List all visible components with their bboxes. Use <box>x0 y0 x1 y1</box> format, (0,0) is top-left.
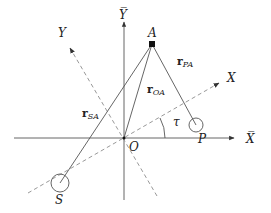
fixed-x-axis-label: X̅ <box>245 131 255 146</box>
angle-tau-arc <box>160 118 165 138</box>
point-s-label: S <box>55 193 63 207</box>
rotated-x-axis-label: X <box>226 71 236 85</box>
vector-r-sa <box>60 44 152 183</box>
vector-r-oa-label: rOA <box>147 83 165 97</box>
vector-r-sa-label: rSA <box>82 107 99 121</box>
vector-r-pa-label: rPA <box>177 55 193 69</box>
rotated-y-axis-label: Y <box>58 26 67 40</box>
diagram-canvas: Y̅ X̅ Y X O A P S τ rSA rOA rPA <box>0 0 271 213</box>
origin-label: O <box>129 140 139 154</box>
point-p-label: P <box>197 132 207 146</box>
point-a-marker <box>149 41 155 47</box>
origin-dot <box>123 137 126 140</box>
point-a-label: A <box>147 26 157 40</box>
fixed-y-axis-label: Y̅ <box>119 7 128 22</box>
vector-r-pa <box>152 44 196 125</box>
angle-tau-label: τ <box>173 115 180 129</box>
rotating-frame-diagram: Y̅ X̅ Y X O A P S τ rSA rOA rPA <box>0 0 271 213</box>
